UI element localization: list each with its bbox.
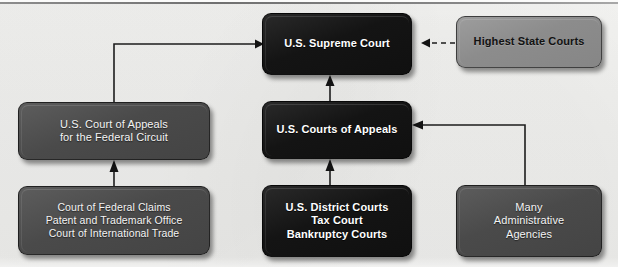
node-text-line: U.S. Supreme Court — [284, 37, 390, 50]
node-text-line: Tax Court — [286, 214, 389, 227]
node-administrative-agencies-label: ManyAdministrativeAgencies — [488, 201, 570, 241]
node-text-line: U.S. Court of Appeals — [60, 118, 168, 131]
node-highest-state-courts-label: Highest State Courts — [468, 35, 591, 48]
node-text-line: Bankruptcy Courts — [286, 228, 389, 241]
node-text-line: Administrative — [494, 214, 564, 227]
court-system-diagram: U.S. Supreme Court Highest State Courts … — [0, 0, 618, 267]
node-courts-of-appeals[interactable]: U.S. Courts of Appeals — [262, 101, 412, 159]
node-text-line: Patent and Trademark Office — [46, 214, 183, 227]
node-courts-of-appeals-label: U.S. Courts of Appeals — [271, 123, 404, 136]
edge-courts-of-appeals-to-supreme-court — [326, 75, 335, 101]
edge-administrative-agencies-to-courts-of-appeals — [412, 121, 525, 186]
node-district-courts[interactable]: U.S. District CourtsTax CourtBankruptcy … — [262, 185, 412, 257]
node-text-line: U.S. Courts of Appeals — [277, 123, 398, 136]
node-text-line: U.S. District Courts — [286, 201, 389, 214]
node-highest-state-courts[interactable]: Highest State Courts — [456, 16, 602, 68]
node-supreme-court-label: U.S. Supreme Court — [278, 37, 396, 50]
node-text-line: Court of Federal Claims — [46, 201, 183, 214]
node-text-line: Court of International Trade — [46, 227, 183, 240]
node-text-line: for the Federal Circuit — [60, 131, 168, 144]
node-specialized-courts-label: Court of Federal ClaimsPatent and Tradem… — [40, 201, 189, 239]
edge-district-courts-to-courts-of-appeals — [326, 159, 335, 185]
node-federal-circuit-label: U.S. Court of Appealsfor the Federal Cir… — [54, 118, 174, 145]
node-text-line: Agencies — [494, 228, 564, 241]
node-text-line: Highest State Courts — [474, 35, 585, 48]
node-supreme-court[interactable]: U.S. Supreme Court — [262, 13, 412, 75]
node-specialized-courts[interactable]: Court of Federal ClaimsPatent and Tradem… — [18, 186, 210, 255]
node-administrative-agencies[interactable]: ManyAdministrativeAgencies — [456, 185, 602, 257]
edge-highest-state-courts-to-supreme-court — [421, 39, 455, 48]
edge-federal-circuit-to-supreme-court — [114, 40, 264, 103]
node-district-courts-label: U.S. District CourtsTax CourtBankruptcy … — [280, 201, 395, 241]
node-text-line: Many — [494, 201, 564, 214]
node-federal-circuit[interactable]: U.S. Court of Appealsfor the Federal Cir… — [18, 102, 210, 160]
edge-specialized-courts-to-federal-circuit — [110, 160, 119, 186]
